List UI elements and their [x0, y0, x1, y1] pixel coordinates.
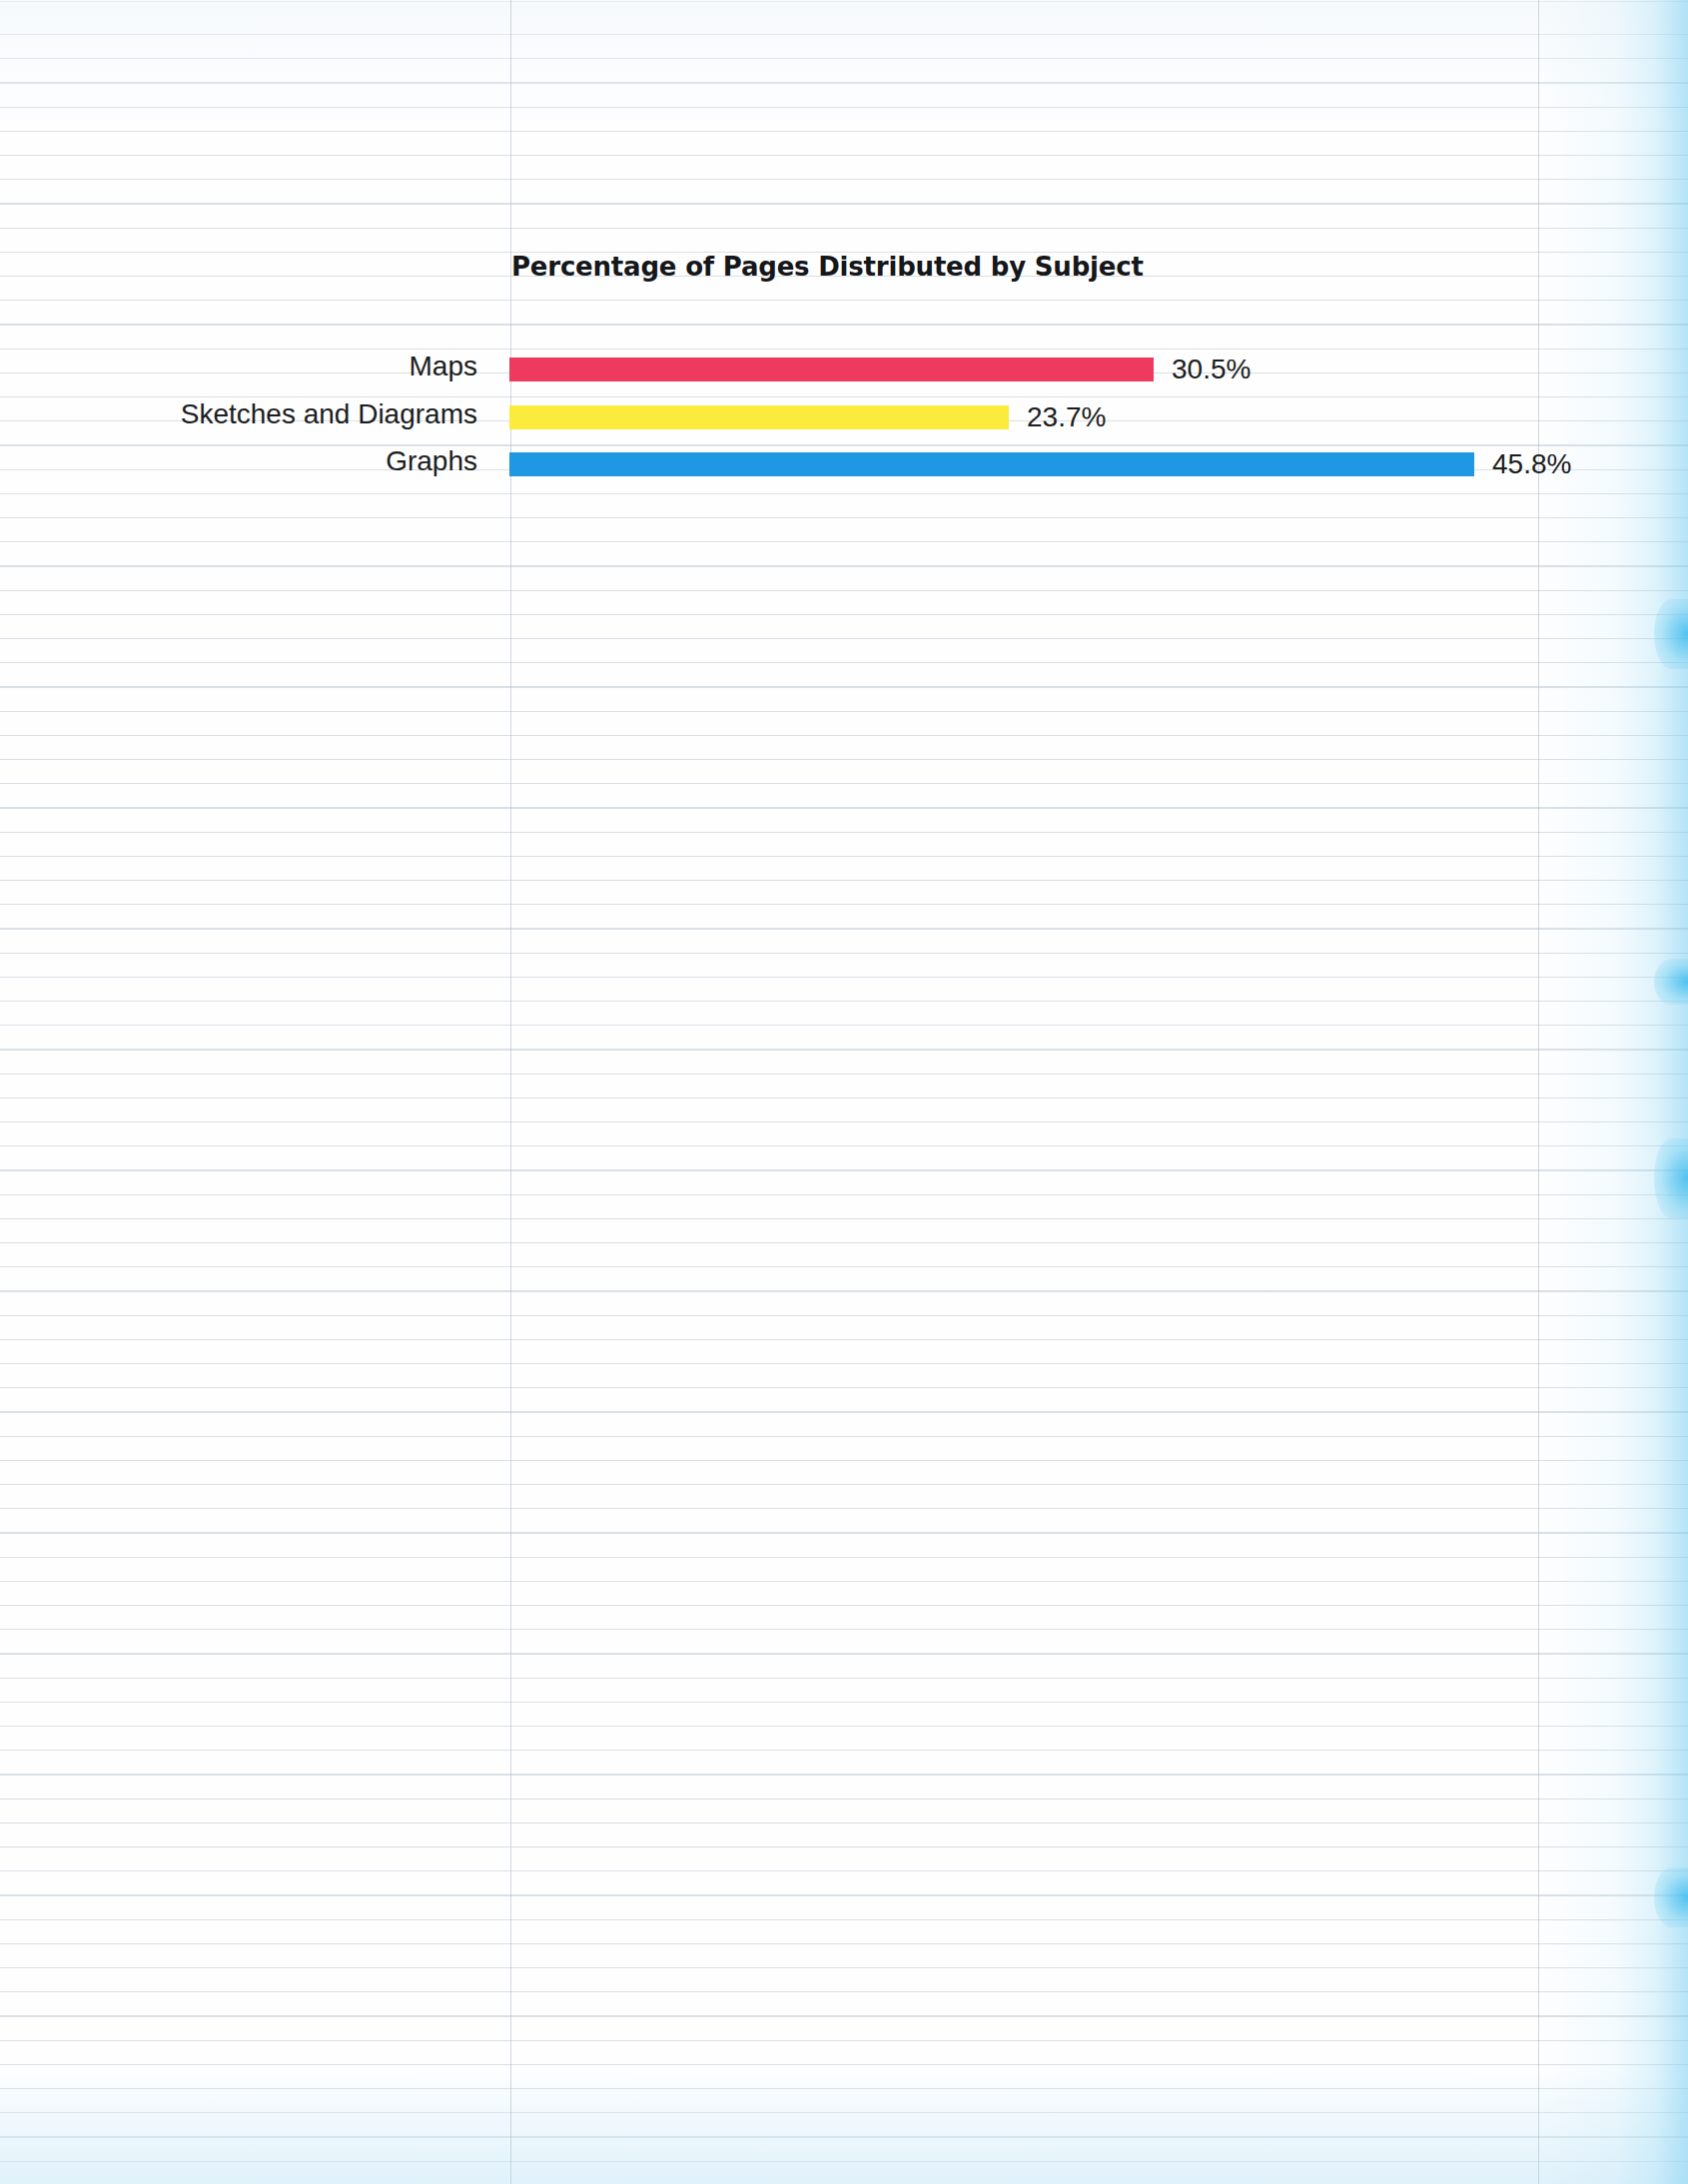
- scan-edge-blob: [1654, 1138, 1688, 1218]
- bar-fill-maps: [509, 358, 1154, 381]
- scan-edge-glow-right: [1538, 0, 1688, 2184]
- scan-edge-glow-bottom: [0, 2064, 1688, 2184]
- ruled-lines: [0, 0, 1688, 2184]
- bar-fill-graphs: [509, 452, 1474, 476]
- scan-edge-blob: [1654, 1867, 1688, 1927]
- bar-value-label: 23.7%: [1027, 405, 1106, 429]
- bar-value-label: 45.8%: [1492, 452, 1571, 476]
- bar-category-label: Graphs: [0, 449, 477, 473]
- bar-category-label: Maps: [0, 355, 477, 378]
- margin-rule-left: [510, 0, 511, 2184]
- bar-value-label: 30.5%: [1172, 358, 1251, 381]
- bar-row: Graphs 45.8%: [0, 452, 1688, 476]
- bar-track: 23.7%: [509, 405, 1106, 429]
- notebook-page: Percentage of Pages Distributed by Subje…: [0, 0, 1688, 2184]
- bar-track: 30.5%: [509, 358, 1251, 381]
- scan-edge-blob: [1654, 599, 1688, 669]
- bar-row: Sketches and Diagrams 23.7%: [0, 405, 1688, 429]
- bar-fill-sketches-and-diagrams: [509, 405, 1009, 429]
- paper-grain: [0, 0, 1688, 2184]
- margin-rule-right: [1538, 0, 1539, 2184]
- bar-category-label: Sketches and Diagrams: [0, 402, 477, 426]
- scan-edge-blob: [1654, 959, 1688, 1005]
- bar-track: 45.8%: [509, 452, 1571, 476]
- bar-row: Maps 30.5%: [0, 358, 1688, 381]
- chart-title: Percentage of Pages Distributed by Subje…: [511, 252, 1144, 282]
